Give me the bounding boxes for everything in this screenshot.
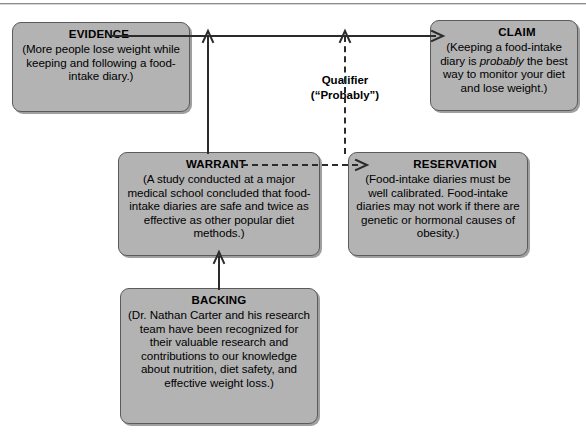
node-claim-label: CLAIM <box>438 26 570 39</box>
node-reservation-text: (Food-intake diaries must be well calibr… <box>356 172 520 239</box>
connector-evidence-to-claim-line <box>112 35 436 37</box>
node-claim-text: (Keeping a food-intake diary is probably… <box>438 40 570 94</box>
node-backing-text: (Dr. Nathan Carter and his research team… <box>128 308 310 389</box>
arrow-up-icon <box>212 251 226 265</box>
node-warrant-text: (A study conducted at a major medical sc… <box>126 172 312 239</box>
connector-warrant-to-reservation <box>242 164 358 166</box>
node-backing-label: BACKING <box>128 294 310 307</box>
arrow-right-icon <box>355 158 369 172</box>
node-claim: CLAIM (Keeping a food-intake diary is pr… <box>430 20 578 111</box>
node-reservation: RESERVATION (Food-intake diaries must be… <box>348 152 528 256</box>
node-warrant: WARRANT (A study conducted at a major me… <box>118 152 320 256</box>
connector-warrant-to-claim-line <box>207 36 209 154</box>
diagram-canvas: EVIDENCE (More people lose weight while … <box>0 0 586 446</box>
arrow-up-icon <box>201 30 215 44</box>
node-claim-emphasis: probably <box>480 54 524 67</box>
node-backing: BACKING (Dr. Nathan Carter and his resea… <box>120 288 318 424</box>
connector-reservation-to-claim-line <box>344 36 346 154</box>
arrow-up-icon <box>338 30 352 44</box>
node-reservation-label: RESERVATION <box>356 158 520 171</box>
arrow-right-icon <box>431 29 445 43</box>
frame-top-rule-shadow <box>0 4 586 5</box>
node-evidence-text: (More people lose weight while keeping a… <box>20 42 182 82</box>
